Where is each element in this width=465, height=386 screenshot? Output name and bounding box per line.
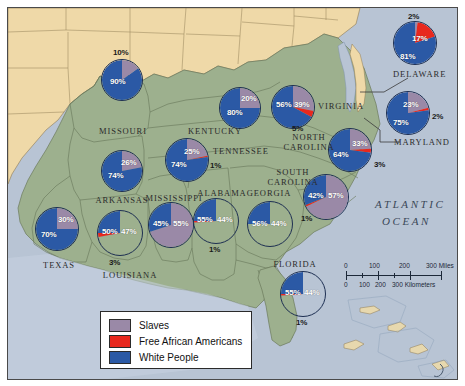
label-south-carolina-slaves: 57% [328,191,343,200]
scale-tick-c [378,271,379,280]
scale-miles-0: 0 [344,262,348,269]
label-texas-white: 70% [41,230,56,239]
label-georgia-white: 56% [252,219,267,228]
state-label-kentucky: KENTUCKY [176,126,254,136]
scale-bar: 0 100 200 300 Miles 0 100 200 300 Kilome… [344,262,458,298]
label-alabama-white: 55% [197,215,212,224]
state-label-texas: TEXAS [30,260,88,270]
scale-miles-100: 100 [369,262,380,269]
state-label-north-carolina-line2: CAROLINA [276,142,342,152]
label-louisiana-free: 3% [109,258,120,267]
label-arkansas-white: 74% [108,171,123,180]
label-georgia-slaves: 44% [271,219,286,228]
pie-maryland[interactable] [386,91,430,135]
scale-km-0: 0 [344,281,348,288]
state-label-georgia: GEORGIA [236,188,302,198]
label-maryland-white: 75% [393,118,408,127]
state-label-delaware: DELAWARE [393,69,458,79]
map-legend: Slaves Free African Americans White Peop… [100,311,252,369]
state-label-south-carolina-line1: SOUTH [260,167,326,177]
scale-tick-e [410,271,411,280]
label-alabama-slaves: 44% [217,215,232,224]
label-virginia-slaves: 39% [294,100,309,109]
scale-miles-300: 300 Miles [426,262,454,269]
scale-tick-d [394,273,395,278]
scale-tick-f [441,271,442,280]
state-label-missouri: MISSOURI [87,126,159,136]
legend-item-slaves[interactable]: Slaves [109,317,251,333]
legend-item-free-african-americans[interactable]: Free African Americans [109,333,251,349]
label-missouri-slaves: 10% [113,48,128,57]
label-louisiana-white: 50% [102,227,117,236]
scale-km-200: 200 [375,281,386,288]
scale-tick-b [362,273,363,278]
label-texas-slaves: 30% [58,215,73,224]
label-florida-free: 1% [296,318,307,327]
legend-label-slaves: Slaves [139,320,169,331]
label-virginia-white: 56% [276,100,291,109]
legend-label-free-african-americans: Free African Americans [139,336,242,347]
label-tennessee-slaves: 25% [184,147,199,156]
label-south-carolina-white: 42% [308,191,323,200]
ocean-label-line1: ATLANTIC [375,198,446,210]
label-missouri-white: 90% [110,77,125,86]
label-north-carolina-slaves: 33% [352,139,367,148]
label-delaware-free: 17% [412,34,427,43]
pie-texas[interactable] [35,207,79,251]
label-maryland-slaves: 23% [403,100,418,109]
label-louisiana-slaves: 47% [121,227,136,236]
scale-miles-200: 200 [399,262,410,269]
label-delaware-white: 81% [400,52,415,61]
state-label-louisiana: LOUISIANA [93,270,167,280]
legend-swatch-white-people [109,351,131,364]
label-south-carolina-free: 1% [301,214,312,223]
label-tennessee-free: 1% [210,161,221,170]
label-kentucky-white: 80% [227,108,242,117]
label-mississippi-white: 45% [153,219,168,228]
state-label-tennessee: TENNESSEE [213,146,275,156]
state-label-maryland: MARYLAND [394,137,458,147]
state-label-florida: FLORIDA [262,259,328,269]
label-florida-white: 55% [285,288,300,297]
legend-label-white-people: White People [139,352,198,363]
label-mississippi-slaves: 55% [173,219,188,228]
state-label-north-carolina-line1: NORTH [276,132,342,142]
scale-km-100: 100 [359,281,370,288]
ocean-label-line2: OCEAN [382,215,431,227]
label-delaware-slaves: 2% [408,12,419,21]
scale-tick-a [346,271,347,280]
label-alabama-free: 1% [209,245,220,254]
legend-swatch-free-african-americans [109,335,131,348]
state-label-south-carolina-line2: CAROLINA [260,177,326,187]
label-tennessee-white: 74% [171,160,186,169]
label-florida-slaves: 44% [304,288,319,297]
legend-item-white-people[interactable]: White People [109,349,251,365]
label-kentucky-slaves: 20% [241,94,256,103]
label-maryland-free: 2% [432,112,443,121]
label-arkansas-slaves: 26% [121,158,136,167]
map-canvas: 10% 90% MISSOURI 20% 80% KENTUCKY 39% 5%… [7,7,458,380]
legend-swatch-slaves [109,319,131,332]
label-north-carolina-free: 3% [374,160,385,169]
scale-km-300: 300 Kilometers [392,281,435,288]
state-label-virginia: VIRGINIA [318,101,380,111]
